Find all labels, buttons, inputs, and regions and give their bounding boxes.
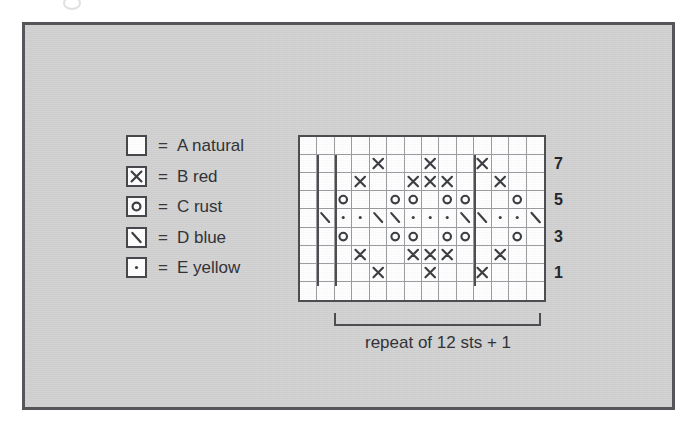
chart-cell[interactable]	[492, 173, 509, 191]
chart-cell[interactable]	[457, 264, 474, 282]
chart-cell[interactable]	[352, 155, 369, 173]
chart-cell[interactable]	[370, 246, 387, 264]
chart-cell[interactable]	[317, 155, 334, 173]
chart-cell[interactable]	[317, 264, 334, 282]
chart-cell[interactable]	[422, 155, 439, 173]
chart-cell[interactable]	[352, 137, 369, 155]
chart-cell[interactable]	[370, 228, 387, 246]
chart-cell[interactable]	[335, 209, 352, 227]
chart-cell[interactable]	[335, 246, 352, 264]
chart-cell[interactable]	[405, 137, 422, 155]
chart-cell[interactable]	[492, 209, 509, 227]
chart-cell[interactable]	[335, 155, 352, 173]
chart-cell[interactable]	[509, 155, 526, 173]
chart-cell[interactable]	[387, 137, 404, 155]
chart-cell[interactable]	[352, 209, 369, 227]
chart-cell[interactable]	[370, 191, 387, 209]
chart-cell[interactable]	[335, 173, 352, 191]
chart-cell[interactable]	[370, 209, 387, 227]
chart-cell[interactable]	[405, 246, 422, 264]
chart-cell[interactable]	[457, 282, 474, 300]
chart-cell[interactable]	[405, 191, 422, 209]
chart-cell[interactable]	[492, 246, 509, 264]
chart-cell[interactable]	[509, 264, 526, 282]
chart-cell[interactable]	[527, 282, 544, 300]
chart-cell[interactable]	[509, 228, 526, 246]
chart-cell[interactable]	[492, 137, 509, 155]
chart-cell[interactable]	[457, 246, 474, 264]
chart-cell[interactable]	[439, 282, 456, 300]
chart-cell[interactable]	[474, 264, 491, 282]
chart-cell[interactable]	[474, 173, 491, 191]
chart-cell[interactable]	[422, 264, 439, 282]
chart-cell[interactable]	[439, 264, 456, 282]
chart-cell[interactable]	[439, 191, 456, 209]
chart-cell[interactable]	[405, 228, 422, 246]
chart-cell[interactable]	[335, 264, 352, 282]
chart-cell[interactable]	[352, 191, 369, 209]
chart-cell[interactable]	[422, 228, 439, 246]
chart-cell[interactable]	[527, 155, 544, 173]
chart-cell[interactable]	[492, 282, 509, 300]
chart-cell[interactable]	[457, 155, 474, 173]
chart-cell[interactable]	[405, 209, 422, 227]
chart-cell[interactable]	[422, 137, 439, 155]
chart-cell[interactable]	[474, 155, 491, 173]
chart-cell[interactable]	[439, 228, 456, 246]
chart-cell[interactable]	[492, 155, 509, 173]
chart-cell[interactable]	[387, 282, 404, 300]
chart-cell[interactable]	[527, 209, 544, 227]
chart-cell[interactable]	[300, 191, 317, 209]
chart-cell[interactable]	[405, 155, 422, 173]
chart-cell[interactable]	[300, 137, 317, 155]
chart-cell[interactable]	[457, 137, 474, 155]
chart-cell[interactable]	[509, 191, 526, 209]
chart-cell[interactable]	[474, 246, 491, 264]
chart-cell[interactable]	[422, 246, 439, 264]
chart-cell[interactable]	[370, 264, 387, 282]
chart-cell[interactable]	[527, 228, 544, 246]
chart-cell[interactable]	[300, 282, 317, 300]
chart-cell[interactable]	[300, 155, 317, 173]
chart-cell[interactable]	[474, 191, 491, 209]
chart-cell[interactable]	[387, 228, 404, 246]
chart-cell[interactable]	[492, 228, 509, 246]
chart-cell[interactable]	[370, 137, 387, 155]
chart-cell[interactable]	[474, 282, 491, 300]
chart-cell[interactable]	[335, 137, 352, 155]
chart-cell[interactable]	[457, 228, 474, 246]
chart-cell[interactable]	[527, 246, 544, 264]
chart-cell[interactable]	[317, 282, 334, 300]
chart-cell[interactable]	[335, 282, 352, 300]
chart-cell[interactable]	[300, 173, 317, 191]
chart-cell[interactable]	[439, 209, 456, 227]
chart-cell[interactable]	[439, 173, 456, 191]
chart-cell[interactable]	[509, 209, 526, 227]
chart-cell[interactable]	[527, 173, 544, 191]
chart-cell[interactable]	[422, 282, 439, 300]
chart-cell[interactable]	[317, 191, 334, 209]
chart-cell[interactable]	[509, 282, 526, 300]
chart-cell[interactable]	[370, 282, 387, 300]
chart-cell[interactable]	[439, 155, 456, 173]
chart-cell[interactable]	[352, 282, 369, 300]
chart-cell[interactable]	[422, 191, 439, 209]
chart-cell[interactable]	[457, 191, 474, 209]
chart-cell[interactable]	[527, 137, 544, 155]
chart-cell[interactable]	[439, 246, 456, 264]
chart-cell[interactable]	[405, 282, 422, 300]
chart-cell[interactable]	[457, 209, 474, 227]
chart-cell[interactable]	[474, 137, 491, 155]
chart-cell[interactable]	[405, 264, 422, 282]
chart-cell[interactable]	[317, 209, 334, 227]
chart-cell[interactable]	[457, 173, 474, 191]
chart-cell[interactable]	[317, 246, 334, 264]
chart-cell[interactable]	[370, 155, 387, 173]
chart-cell[interactable]	[387, 246, 404, 264]
chart-cell[interactable]	[352, 246, 369, 264]
chart-cell[interactable]	[405, 173, 422, 191]
chart-cell[interactable]	[300, 209, 317, 227]
chart-cell[interactable]	[317, 228, 334, 246]
chart-cell[interactable]	[335, 228, 352, 246]
chart-cell[interactable]	[527, 264, 544, 282]
